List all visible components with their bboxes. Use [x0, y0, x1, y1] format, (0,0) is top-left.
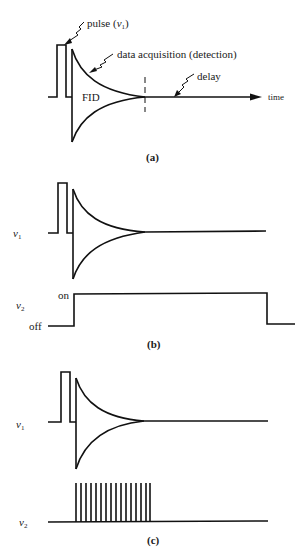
time-arrow-icon — [250, 94, 262, 101]
pulse-leader-arrow-icon — [64, 38, 72, 45]
panel-b-nu1-pulse-waveform — [48, 183, 73, 233]
panel-c-nu1-pulse-waveform — [48, 372, 76, 422]
delay-label: delay — [197, 70, 221, 82]
panel-c-caption: (c) — [147, 534, 160, 547]
panel-b-fid-lower-envelope — [73, 232, 145, 279]
panel-b-nu2-label: ν2 — [16, 299, 25, 313]
pulse-label: pulse (ν1) — [87, 17, 129, 31]
panel-c: ν1 ν2 (c) — [16, 372, 268, 547]
fid-label: FID — [82, 91, 100, 103]
data-acquisition-label: data acquisition (detection) — [117, 48, 237, 61]
panel-c-nu2-label: ν2 — [19, 516, 28, 530]
nmr-pulse-sequence-diagram: pulse (ν1) data acquisition (detection) … — [0, 0, 305, 553]
panel-c-fid-upper-envelope — [76, 378, 144, 421]
pulse-leader-line — [69, 22, 84, 41]
panel-c-fid-lower-envelope — [76, 421, 144, 469]
decoupler-off-label: off — [29, 320, 42, 332]
acquisition-leader-line — [94, 54, 113, 70]
panel-b-nu1-baseline — [145, 231, 266, 232]
panel-c-nu1-label: ν1 — [16, 418, 25, 432]
panel-a-caption: (a) — [146, 151, 159, 164]
time-label: time — [268, 92, 284, 102]
panel-a: pulse (ν1) data acquisition (detection) … — [48, 17, 284, 164]
panel-b: ν1 ν2 on off (b) — [13, 183, 295, 351]
panel-a-pulse-waveform — [48, 45, 72, 97]
panel-b-nu2-decoupler-waveform — [48, 293, 295, 326]
panel-b-caption: (b) — [147, 338, 161, 351]
panel-b-nu1-label: ν1 — [13, 227, 22, 241]
panel-a-fid-lower-envelope — [72, 97, 145, 142]
decoupler-pulse-train — [76, 483, 150, 522]
acquisition-leader-arrow-icon — [89, 67, 97, 73]
panel-b-fid-upper-envelope — [73, 189, 145, 232]
delay-leader-line — [178, 74, 194, 93]
decoupler-on-label: on — [58, 289, 70, 301]
